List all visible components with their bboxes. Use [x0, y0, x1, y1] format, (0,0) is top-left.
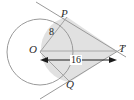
dimension-arrow-right-icon — [109, 57, 117, 63]
radius-measurement-label: 8 — [49, 27, 54, 37]
distance-measurement-label: 16 — [70, 55, 82, 65]
point-label-t: T — [119, 43, 125, 54]
point-label-p: P — [61, 8, 68, 19]
point-label-q: Q — [66, 79, 74, 90]
point-label-o: O — [29, 44, 37, 55]
geometry-figure: P Q O T 8 16 — [0, 0, 134, 100]
